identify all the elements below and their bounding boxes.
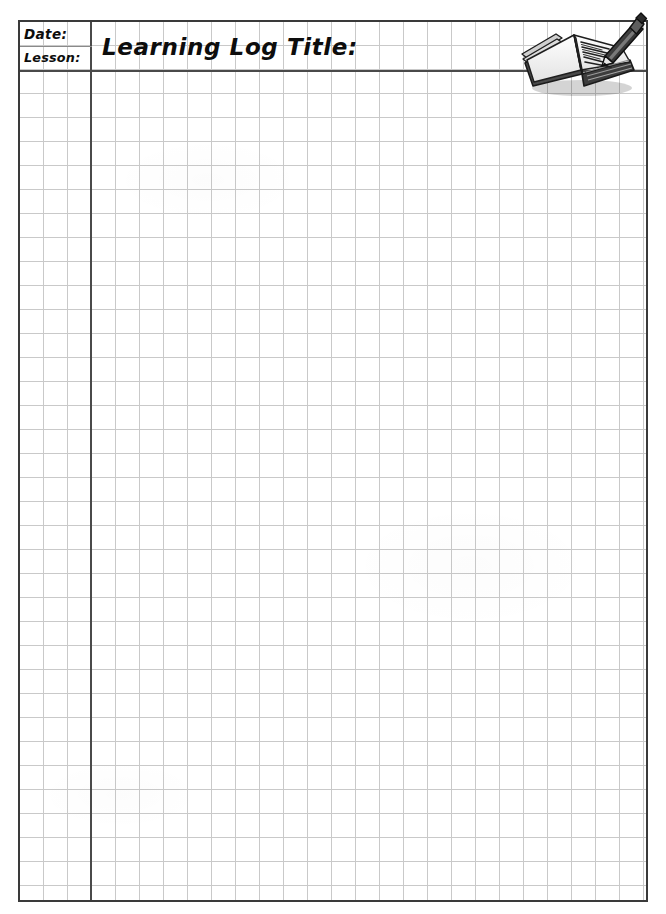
header-divider-rule <box>18 70 648 72</box>
date-label: Date: <box>24 22 90 46</box>
vertical-divider-rule <box>90 20 92 902</box>
worksheet-page: Date: Lesson: Learning Log Title: <box>0 0 666 914</box>
paper-texture <box>20 22 646 900</box>
learning-log-title-label: Learning Log Title: <box>102 22 358 70</box>
lesson-label: Lesson: <box>24 46 90 70</box>
grid-sheet[interactable]: Date: Lesson: Learning Log Title: <box>18 20 648 902</box>
label-column: Date: Lesson: <box>20 22 90 70</box>
